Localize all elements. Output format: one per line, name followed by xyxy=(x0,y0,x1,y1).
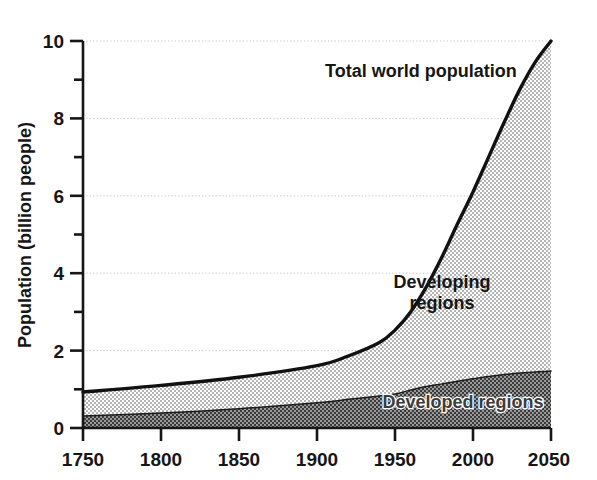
y-axis-ticks xyxy=(70,41,83,428)
x-tick-label-2050: 2050 xyxy=(528,449,570,470)
y-axis-tick-labels: 10 8 6 4 2 0 xyxy=(43,31,65,439)
annotation-developing-regions-line2: regions xyxy=(409,293,474,313)
area-developing-regions xyxy=(83,41,551,416)
population-area-chart: 10 8 6 4 2 0 1750 1800 1850 1900 1950 20… xyxy=(0,0,597,480)
y-tick-label-6: 6 xyxy=(53,186,64,207)
annotation-developing-regions-line1: Developing xyxy=(393,272,490,292)
y-tick-label-0: 0 xyxy=(53,418,64,439)
y-tick-label-4: 4 xyxy=(53,263,64,284)
annotation-total-world-population: Total world population xyxy=(325,61,517,81)
x-tick-label-1750: 1750 xyxy=(62,449,104,470)
x-tick-label-1850: 1850 xyxy=(218,449,260,470)
y-tick-label-8: 8 xyxy=(53,108,64,129)
x-axis-tick-labels: 1750 1800 1850 1900 1950 2000 2050 xyxy=(62,449,570,470)
x-tick-label-1900: 1900 xyxy=(296,449,338,470)
chart-canvas: 10 8 6 4 2 0 1750 1800 1850 1900 1950 20… xyxy=(0,0,597,480)
y-tick-label-2: 2 xyxy=(53,341,64,362)
annotation-developed-regions: Developed regions xyxy=(382,392,543,412)
x-axis-ticks xyxy=(83,428,551,441)
x-tick-label-1950: 1950 xyxy=(374,449,416,470)
y-axis-title: Population (billion people) xyxy=(15,122,35,348)
x-tick-label-1800: 1800 xyxy=(140,449,182,470)
x-tick-label-2000: 2000 xyxy=(452,449,494,470)
y-tick-label-10: 10 xyxy=(43,31,64,52)
